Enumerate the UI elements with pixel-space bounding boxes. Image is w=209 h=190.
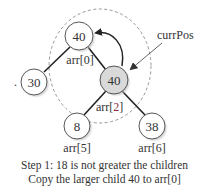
copy-up-arrow-icon (96, 33, 123, 66)
node-rr-value: 38 (146, 119, 159, 134)
index-label-arr2: arr[2] (96, 100, 123, 114)
index-label-arr6: arr[6] (138, 141, 165, 155)
node-left: 30 (21, 69, 47, 95)
node-current-value: 40 (108, 73, 121, 88)
caption-line-1: Step 1: 18 is not greater the children (0, 158, 209, 172)
stray-mark: . (14, 75, 17, 89)
node-rl: 8 (64, 113, 90, 139)
edge-right-rr (122, 91, 145, 115)
currpos-pointer-arrow-icon (131, 43, 162, 69)
node-current: 40 (100, 66, 128, 94)
node-root-value: 40 (73, 29, 86, 44)
index-label-arr5: arr[5] (63, 141, 90, 155)
caption-line-2: Copy the larger child 40 to arr[0] (0, 172, 209, 186)
index-label-arr0: arr[0] (66, 53, 93, 67)
node-rr: 38 (139, 113, 165, 139)
node-rl-value: 8 (74, 119, 81, 134)
node-root: 40 (65, 22, 93, 50)
currpos-label: currPos (157, 28, 194, 42)
node-left-value: 30 (28, 75, 41, 90)
